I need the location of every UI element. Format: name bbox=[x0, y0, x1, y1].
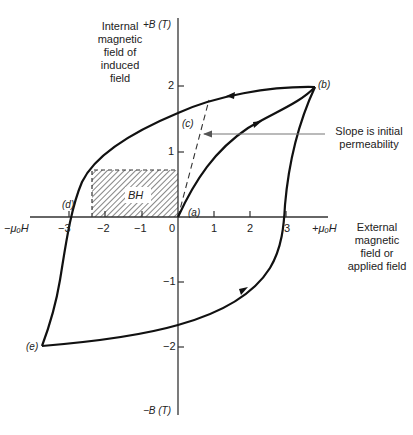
y-tick-neg1: −1 bbox=[163, 275, 176, 287]
arrow-upper-branch-icon bbox=[226, 92, 235, 99]
x-tick-neg3: −3 bbox=[58, 222, 71, 234]
x-tick-3: 3 bbox=[284, 222, 290, 234]
y-tick-neg2: −2 bbox=[163, 340, 176, 352]
y-axis-top-label: +B (T) bbox=[143, 18, 171, 31]
x-tick-2: 2 bbox=[247, 222, 253, 234]
y-axis-description: Internal magnetic field of induced field bbox=[90, 20, 150, 85]
y-axis-bottom-label: −B (T) bbox=[143, 404, 171, 417]
x-axis-right-label: +μₒH bbox=[312, 222, 337, 235]
point-label-b: (b) bbox=[318, 78, 330, 91]
point-label-a: (a) bbox=[188, 206, 200, 219]
point-label-e: (e) bbox=[26, 340, 38, 353]
x-tick-neg2: −2 bbox=[97, 222, 110, 234]
y-tick-1: 1 bbox=[168, 145, 174, 157]
x-tick-0: 0 bbox=[169, 222, 175, 234]
x-tick-1: 1 bbox=[211, 222, 217, 234]
bh-region-label: BH bbox=[128, 189, 143, 202]
initial-magnetization-curve bbox=[178, 87, 315, 217]
hysteresis-diagram bbox=[0, 0, 413, 435]
arrow-initial-curve-icon bbox=[253, 121, 262, 128]
initial-permeability-annotation: Slope is initial permeability bbox=[324, 125, 413, 151]
x-tick-neg1: −1 bbox=[134, 222, 147, 234]
y-tick-2: 2 bbox=[168, 79, 174, 91]
x-axis-description: External magnetic field or applied field bbox=[343, 221, 411, 273]
point-label-d: (d) bbox=[62, 198, 74, 211]
point-label-c: (c) bbox=[182, 117, 194, 130]
x-axis-left-label: −μₒH bbox=[4, 222, 29, 235]
